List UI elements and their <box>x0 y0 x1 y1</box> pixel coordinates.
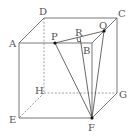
label-F: F <box>88 122 95 133</box>
edge-FG <box>92 93 117 118</box>
label-C: C <box>118 8 126 19</box>
label-H: H <box>35 85 44 96</box>
label-P: P <box>51 31 58 42</box>
label-A: A <box>8 38 17 49</box>
point-F <box>90 116 93 119</box>
label-B: B <box>83 45 90 56</box>
label-R: R <box>75 27 83 38</box>
cube-diagram: D C A P Q R B H G E F <box>0 0 135 139</box>
label-E: E <box>9 114 16 125</box>
segment-QF <box>92 31 104 118</box>
label-G: G <box>119 89 127 100</box>
label-D: D <box>39 6 47 17</box>
edge-HE <box>19 93 44 118</box>
label-Q: Q <box>99 20 107 31</box>
